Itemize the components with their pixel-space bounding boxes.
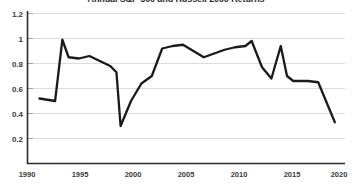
ytick-label-1-2: 1.2 xyxy=(12,10,24,19)
ytick-label-0-2: 0.2 xyxy=(12,135,24,144)
y-axis-tick-labels: 1.2 1 0.8 0.6 0.4 0.2 xyxy=(12,10,24,144)
ytick-label-0-8: 0.8 xyxy=(12,60,24,69)
x-axis-tick-labels: 1990 1995 2000 2005 2010 2015 2020 xyxy=(19,170,348,179)
xtick-label-1990: 1990 xyxy=(19,170,36,179)
xtick-label-1995: 1995 xyxy=(72,170,89,179)
gridlines xyxy=(27,14,345,139)
xtick-label-2005: 2005 xyxy=(178,170,195,179)
xtick-label-2010: 2010 xyxy=(231,170,248,179)
xtick-label-2015: 2015 xyxy=(284,170,301,179)
xtick-label-2020: 2020 xyxy=(331,170,348,179)
xtick-label-2000: 2000 xyxy=(125,170,142,179)
ytick-label-0-6: 0.6 xyxy=(12,85,24,94)
chart-screenshot: Annual S&P 500 and Russell 2000 Returns … xyxy=(0,0,352,190)
ytick-label-1-0: 1 xyxy=(19,35,24,44)
ytick-label-0-4: 0.4 xyxy=(12,110,24,119)
line-chart-plot: 1.2 1 0.8 0.6 0.4 0.2 1990 1995 2000 200… xyxy=(0,0,352,190)
